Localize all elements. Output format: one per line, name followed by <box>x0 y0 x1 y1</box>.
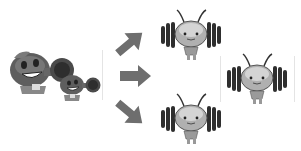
bee-character-right <box>224 52 290 106</box>
arrow-right-icon <box>118 64 152 88</box>
divider-left <box>102 50 103 100</box>
frame-right-edge <box>294 56 295 102</box>
bee-character-bottom <box>158 92 224 146</box>
peashooter-small-icon <box>58 72 102 104</box>
arrow-up-right <box>112 28 148 58</box>
arrow-up-right-icon <box>112 28 148 58</box>
bee-icon <box>224 52 290 106</box>
arrow-down-right-icon <box>112 98 148 128</box>
frame-left-edge <box>220 56 221 102</box>
arrow-right <box>118 64 152 88</box>
bee-character-top <box>158 8 224 62</box>
bee-icon <box>158 8 224 62</box>
character-small-left <box>58 72 102 104</box>
arrow-down-right <box>112 98 148 128</box>
bee-icon <box>158 92 224 146</box>
